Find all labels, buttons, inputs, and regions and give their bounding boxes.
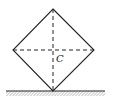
square-body [13,9,94,91]
ground-hatching [6,91,105,96]
diagram-canvas: C [0,0,115,102]
ground [6,91,105,96]
center-label: C [56,53,64,64]
